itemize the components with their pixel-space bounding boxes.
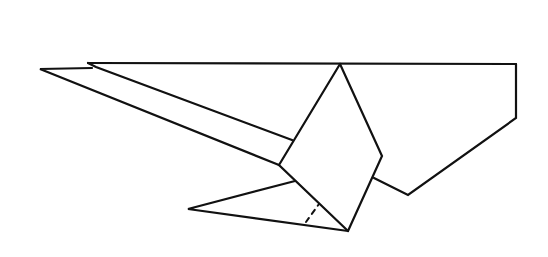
lower-flap — [188, 181, 348, 231]
fold-line-dotted — [306, 204, 319, 222]
origami-diagram — [0, 0, 548, 257]
right-outline — [374, 64, 516, 195]
diagram-drawing — [0, 0, 548, 257]
top-edge — [88, 63, 516, 64]
central-flap-right — [340, 64, 382, 231]
central-flap-left — [279, 64, 348, 231]
left-tip-edge — [40, 68, 279, 165]
